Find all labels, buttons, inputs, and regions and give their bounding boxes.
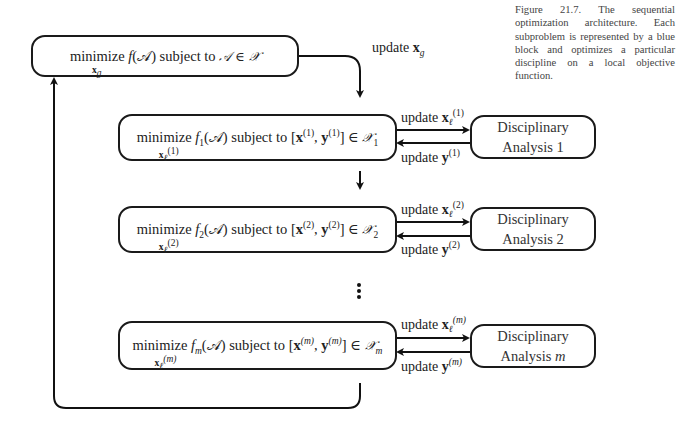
subproblem-statement-1: minimize f1(𝒜) subject to [x(1), y(1)] ∈…: [137, 128, 378, 148]
vertical-ellipsis: [357, 283, 362, 301]
design-var-under: xg: [92, 65, 102, 78]
system-problem-statement: minimize f(𝒜) subject to 𝒜 ∈ 𝒳 xg: [70, 48, 260, 65]
update-global-label: update xg: [372, 40, 425, 58]
figure-label: Figure 21.7.: [515, 4, 581, 15]
system-optimizer-box: minimize f(𝒜) subject to 𝒜 ∈ 𝒳 xg: [31, 35, 299, 77]
update-global-arrow: [298, 56, 360, 96]
discipline-box-m: DisciplinaryAnalysis m: [470, 324, 596, 368]
subproblem-statement-2: minimize f2(𝒜) subject to [x(2), y(2)] ∈…: [137, 220, 378, 240]
subproblem-box-2: minimize f2(𝒜) subject to [x(2), y(2)] ∈…: [118, 206, 397, 253]
objective-arg: (𝒜): [132, 48, 156, 64]
constraint-expr: 𝒜 ∈ 𝒳: [219, 49, 260, 64]
caption-text: The sequential optimization architecture…: [515, 4, 675, 81]
update-y-label-m: update y(m): [401, 357, 462, 375]
subject-to-label: subject to: [160, 48, 216, 64]
discipline-box-2: DisciplinaryAnalysis 2: [470, 207, 596, 251]
update-x-label-m: update xℓ(m): [401, 315, 466, 334]
update-x-label-1: update xℓ(1): [401, 108, 464, 127]
local-var-under-1: xℓ(1): [159, 146, 179, 163]
update-y-label-1: update y(1): [401, 148, 460, 166]
local-var-under-m: xℓ(m): [155, 354, 177, 371]
subproblem-box-m: minimize fm(𝒜) subject to [x(m), y(m)] ∈…: [118, 321, 397, 370]
update-x-label-2: update xℓ(2): [401, 200, 464, 219]
discipline-box-1: DisciplinaryAnalysis 1: [470, 115, 596, 159]
minimize-label: minimize: [70, 48, 125, 64]
local-var-under-2: xℓ(2): [159, 238, 179, 255]
subproblem-statement-m: minimize fm(𝒜) subject to [x(m), y(m)] ∈…: [133, 336, 383, 356]
figure-caption: Figure 21.7. The sequential optimization…: [515, 3, 675, 83]
subproblem-box-1: minimize f1(𝒜) subject to [x(1), y(1)] ∈…: [118, 114, 397, 161]
update-y-label-2: update y(2): [401, 240, 460, 258]
